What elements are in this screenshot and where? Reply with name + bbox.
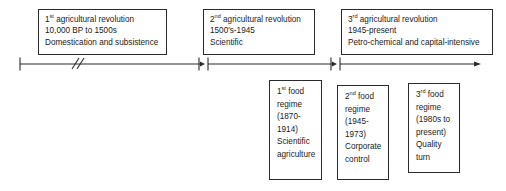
food-regime-heading-3: 3rd food [416,89,453,102]
revolution-box-2: 2nd agricultural revolution 1500's-1945 … [203,9,315,55]
axis-arrowhead-3 [474,61,481,66]
axis-arrowhead-2 [332,61,337,66]
food-regime-heading-1: 1st food [277,86,315,99]
food-regime-heading-2: 2nd food [345,91,382,104]
revolution-descriptor-1: Domestication and subsistence [45,37,161,48]
food-regime-line5-1: Scientific [277,136,315,149]
food-regime-box-2: 2nd food regime (1945- 1973) Corporate c… [337,85,389,180]
revolution-period-1: 10,000 BP to 1500s [45,25,161,36]
food-regime-box-1: 1st food regime (1870- 1914) Scientific … [269,80,322,180]
revolution-box-3: 3rd agricultural revolution 1945-present… [341,9,493,55]
food-regime-line5-3: Quality [416,139,453,152]
food-regime-line6-1: agriculture [277,149,315,162]
food-regime-line4-2: 1973) [345,129,382,142]
timeline-diagram: 1st agricultural revolution 10,000 BP to… [0,0,506,191]
food-regime-line5-2: Corporate [345,141,382,154]
food-regime-line3-3: (1980s to [416,114,453,127]
axis-arrowhead-1 [200,61,205,66]
food-regime-line6-3: turn [416,152,453,165]
food-regime-line3-2: (1945- [345,116,382,129]
food-regime-line2-1: regime [277,99,315,112]
food-regime-box-3: 3rd food regime (1980s to present) Quali… [408,83,460,173]
revolution-period-3: 1945-present [348,25,487,36]
revolution-heading-1: 1st agricultural revolution [45,14,161,25]
food-regime-line2-2: regime [345,104,382,117]
food-regime-line6-2: control [345,154,382,167]
food-regime-line3-1: (1870- [277,111,315,124]
revolution-heading-3: 3rd agricultural revolution [348,14,487,25]
revolution-descriptor-2: Scientific [210,37,309,48]
food-regime-line4-3: present) [416,127,453,140]
revolution-period-2: 1500's-1945 [210,25,309,36]
food-regime-line2-3: regime [416,102,453,115]
revolution-descriptor-3: Petro-chemical and capital-intensive [348,37,487,48]
food-regime-line4-1: 1914) [277,124,315,137]
revolution-heading-2: 2nd agricultural revolution [210,14,309,25]
revolution-box-1: 1st agricultural revolution 10,000 BP to… [38,9,167,55]
